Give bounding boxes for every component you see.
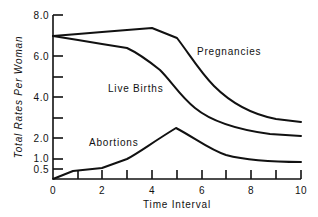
y-tick-1: 1.0: [34, 153, 49, 164]
y-tick-4: 4.0: [34, 92, 49, 103]
x-tick-6: 6: [199, 185, 205, 196]
x-tick-10: 10: [295, 185, 307, 196]
x-tick-2: 2: [99, 185, 105, 196]
x-axis-title: Time Interval: [143, 199, 211, 210]
label-live-births: Live Births: [108, 83, 164, 94]
x-tick-4: 4: [149, 185, 155, 196]
y-axis-title: Total Rates Per Woman: [13, 36, 24, 159]
series-live-births-line: [53, 36, 301, 136]
y-tick-0-5: 0.5: [34, 164, 49, 175]
label-pregnancies: Pregnancies: [197, 46, 261, 57]
chart-canvas: 8.0 6.0 4.0 2.0 1.0 0.5 0 2 4 6 8 10 Tim…: [0, 0, 318, 217]
y-tick-6: 6.0: [34, 51, 49, 62]
y-tick-2: 2.0: [34, 133, 49, 144]
y-tick-8: 8.0: [34, 10, 49, 21]
label-abortions: Abortions: [89, 137, 138, 148]
x-tick-0: 0: [50, 185, 56, 196]
x-tick-8: 8: [248, 185, 254, 196]
